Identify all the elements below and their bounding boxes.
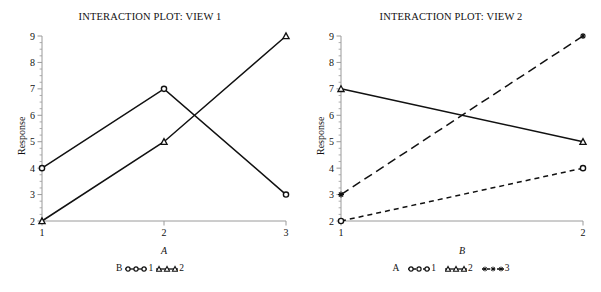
data-point-circle-marker bbox=[161, 86, 166, 91]
series-line-3 bbox=[341, 36, 583, 195]
legend-entry-3[interactable]: 3 bbox=[482, 263, 510, 274]
data-point-cross-marker bbox=[580, 33, 586, 39]
x-axis-tick-label: 3 bbox=[284, 227, 289, 238]
legend-entry-1[interactable]: 1 bbox=[408, 263, 436, 274]
legend-entry-label: 2 bbox=[468, 263, 473, 273]
y-axis-tick-label: 7 bbox=[329, 83, 334, 94]
y-axis-tick-label: 3 bbox=[329, 189, 334, 200]
legend-swatch-circle bbox=[125, 264, 147, 274]
y-axis-tick-label: 6 bbox=[329, 110, 334, 121]
y-axis-tick-label: 8 bbox=[30, 57, 35, 68]
y-axis-tick-label: 4 bbox=[30, 163, 35, 174]
legend-entry-label: 1 bbox=[431, 263, 436, 273]
y-axis-tick-label: 5 bbox=[30, 136, 35, 147]
legend-entry-2[interactable]: 2 bbox=[445, 263, 473, 274]
legend-swatch-triangle bbox=[445, 264, 467, 274]
x-axis-tick-label: 1 bbox=[339, 227, 344, 238]
y-axis-tick-label: 6 bbox=[30, 110, 35, 121]
legend-title: A bbox=[392, 263, 399, 273]
figure-root: INTERACTION PLOT: VIEW 1 Response 234567… bbox=[0, 0, 601, 292]
y-axis-tick-label: 7 bbox=[30, 83, 35, 94]
legend-swatch-circle bbox=[408, 264, 430, 274]
y-axis-tick-label: 2 bbox=[30, 216, 35, 227]
data-point-triangle-marker bbox=[338, 86, 344, 92]
y-axis-tick-label: 4 bbox=[329, 163, 334, 174]
x-axis-label-view-1: A bbox=[42, 245, 286, 256]
legend-swatch-cross bbox=[482, 264, 504, 274]
legend-entry-label: 2 bbox=[179, 263, 184, 273]
y-axis-tick-label: 9 bbox=[30, 31, 35, 42]
series-line-1 bbox=[341, 168, 583, 221]
legend-title: B bbox=[116, 263, 122, 273]
legend-entry-label: 3 bbox=[505, 263, 510, 273]
legend-swatch-triangle bbox=[156, 264, 178, 274]
x-axis-label-view-2: B bbox=[341, 245, 583, 256]
y-axis-tick-label: 2 bbox=[329, 216, 334, 227]
x-axis-tick-label: 2 bbox=[581, 227, 586, 238]
data-point-triangle-marker bbox=[283, 33, 289, 39]
legend-entry-1[interactable]: 1 bbox=[125, 263, 153, 274]
legend-view-2: A123 bbox=[301, 263, 601, 274]
data-point-circle-marker bbox=[580, 166, 585, 171]
x-axis-tick-label: 1 bbox=[40, 227, 45, 238]
y-axis-tick-label: 8 bbox=[329, 57, 334, 68]
y-axis-tick-label: 9 bbox=[329, 31, 334, 42]
legend-view-1: B12 bbox=[0, 263, 300, 274]
panel-view-1: INTERACTION PLOT: VIEW 1 Response 234567… bbox=[0, 0, 300, 292]
x-axis-tick-label: 2 bbox=[162, 227, 167, 238]
data-point-circle-marker bbox=[283, 192, 288, 197]
panel-view-2: INTERACTION PLOT: VIEW 2 Response 234567… bbox=[301, 0, 601, 292]
legend-entry-2[interactable]: 2 bbox=[156, 263, 184, 274]
series-line-2 bbox=[42, 36, 286, 221]
data-point-circle-marker bbox=[39, 166, 44, 171]
legend-entry-label: 1 bbox=[148, 263, 153, 273]
y-axis-tick-label: 5 bbox=[329, 136, 334, 147]
data-point-triangle-marker bbox=[580, 139, 586, 145]
data-point-circle-marker bbox=[338, 218, 343, 223]
y-axis-tick-label: 3 bbox=[30, 189, 35, 200]
